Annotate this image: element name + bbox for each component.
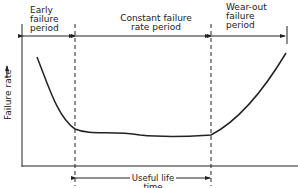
constant-period-label: Constant failure rate period xyxy=(96,14,216,32)
useful-life-label: Useful life time xyxy=(128,174,178,188)
wearout-period-label: Wear-out failure period xyxy=(226,3,276,30)
early-period-label: Early failure period xyxy=(30,6,72,33)
failure-rate-curve xyxy=(37,53,286,137)
bathtub-diagram: Early failure period Constant failure ra… xyxy=(0,0,298,188)
y-axis-label: Failure rate xyxy=(3,69,13,120)
